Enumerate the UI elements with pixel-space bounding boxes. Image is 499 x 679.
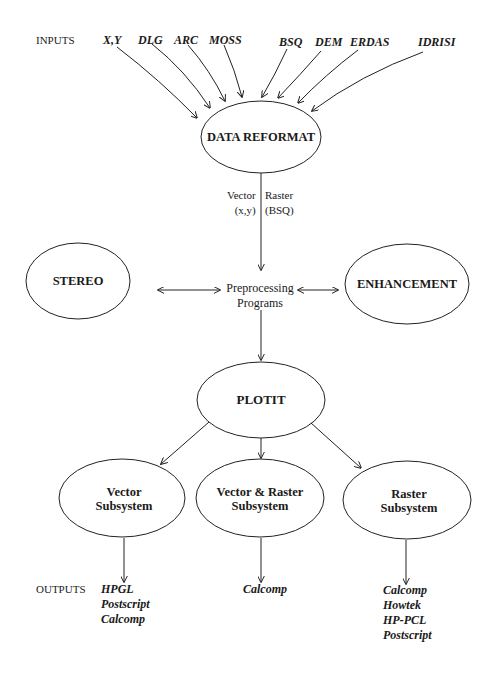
arrow-idrisi bbox=[312, 52, 423, 111]
output-item: HP-PCL bbox=[383, 613, 432, 628]
output-item: Howtek bbox=[383, 598, 432, 613]
output-item: Calcomp bbox=[101, 612, 150, 627]
input-arc: ARC bbox=[174, 33, 198, 48]
vector-subsystem-label: Vector Subsystem bbox=[96, 485, 153, 513]
arrow-dlg bbox=[152, 44, 210, 108]
edge-label-raster-line2: (BSQ) bbox=[265, 203, 294, 218]
input-idrisi: IDRISI bbox=[418, 35, 455, 50]
arrow-plotit-to-raster bbox=[311, 423, 361, 468]
diagram-canvas bbox=[0, 0, 499, 679]
data-reformat-label: DATA REFORMAT bbox=[207, 130, 315, 144]
vector-subsystem-line2: Subsystem bbox=[96, 499, 153, 513]
output-item: Postscript bbox=[383, 628, 432, 643]
input-dlg: DLG bbox=[138, 33, 163, 48]
edge-label-vector: Vector (x,y) bbox=[227, 188, 256, 218]
vector-raster-subsystem-line1: Vector & Raster bbox=[217, 485, 304, 499]
output-item: HPGL bbox=[101, 582, 150, 597]
input-moss: MOSS bbox=[209, 33, 242, 48]
vector-raster-subsystem-label: Vector & Raster Subsystem bbox=[217, 485, 304, 513]
arrow-xy bbox=[117, 47, 197, 118]
output-item: Calcomp bbox=[243, 582, 287, 597]
raster-subsystem-line1: Raster bbox=[381, 487, 438, 501]
arrow-moss bbox=[224, 45, 242, 97]
preprocessing-label: Preprocessing Programs bbox=[226, 281, 293, 311]
stereo-label: STEREO bbox=[53, 274, 104, 288]
plotit-label: PLOTIT bbox=[236, 393, 285, 408]
output-item: Calcomp bbox=[383, 583, 432, 598]
outputs-label: OUTPUTS bbox=[36, 583, 86, 595]
outputs-vector-list: HPGL Postscript Calcomp bbox=[101, 582, 150, 627]
vector-subsystem-line1: Vector bbox=[96, 485, 153, 499]
edge-label-vector-line1: Vector bbox=[227, 188, 256, 203]
enhancement-label: ENHANCEMENT bbox=[357, 277, 457, 291]
input-dem: DEM bbox=[315, 35, 342, 50]
preprocessing-line2: Programs bbox=[226, 296, 293, 311]
input-erdas: ERDAS bbox=[350, 35, 389, 50]
output-item: Postscript bbox=[101, 597, 150, 612]
edge-label-raster: Raster (BSQ) bbox=[265, 188, 294, 218]
inputs-label: INPUTS bbox=[36, 34, 75, 46]
edge-label-raster-line1: Raster bbox=[265, 188, 294, 203]
arrow-plotit-to-vector bbox=[161, 422, 209, 464]
outputs-raster-list: Calcomp Howtek HP-PCL Postscript bbox=[383, 583, 432, 643]
arrow-arc bbox=[188, 45, 225, 101]
input-xy: X,Y bbox=[103, 33, 121, 48]
input-bsq: BSQ bbox=[279, 35, 302, 50]
arrow-erdas bbox=[298, 50, 358, 103]
edge-label-vector-line2: (x,y) bbox=[227, 203, 256, 218]
preprocessing-line1: Preprocessing bbox=[226, 281, 293, 296]
arrow-bsq bbox=[262, 49, 287, 97]
arrow-dem bbox=[278, 51, 321, 98]
raster-subsystem-label: Raster Subsystem bbox=[381, 487, 438, 515]
raster-subsystem-line2: Subsystem bbox=[381, 501, 438, 515]
vector-raster-subsystem-line2: Subsystem bbox=[217, 499, 304, 513]
outputs-vector-raster-list: Calcomp bbox=[243, 582, 287, 597]
